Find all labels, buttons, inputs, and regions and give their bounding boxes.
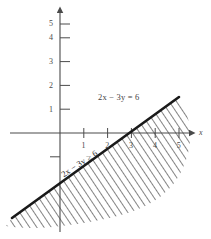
x-tick-label-2: 2 <box>105 142 109 150</box>
y-tick-label-1: 1 <box>49 106 53 114</box>
x-tick-label-3: 3 <box>129 142 133 150</box>
inequality-graph-figure: 1 2 3 4 5 1 2 3 4 5 x 2x − 3y = 6 2x − 3… <box>0 0 211 239</box>
x-tick-label-5: 5 <box>177 142 181 150</box>
boundary-equation-label: 2x − 3y = 6 <box>98 92 140 102</box>
x-axis-label: x <box>199 128 203 137</box>
plot-canvas <box>0 0 211 239</box>
y-tick-label-4: 4 <box>49 34 53 42</box>
y-tick-label-5: 5 <box>49 20 53 28</box>
shaded-solution-region <box>0 80 211 239</box>
x-tick-label-1: 1 <box>82 142 86 150</box>
x-tick-label-4: 4 <box>153 142 157 150</box>
y-tick-label-3: 3 <box>49 58 53 66</box>
y-tick-label-2: 2 <box>49 82 53 90</box>
